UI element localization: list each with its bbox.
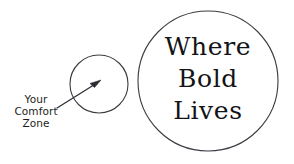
comfort-zone-label-line-3: Zone: [8, 117, 64, 129]
comfort-zone-diagram: Your Comfort Zone Where Bold Lives: [0, 0, 294, 164]
bold-circle-line-2: Bold: [147, 63, 269, 95]
comfort-zone-circle: [70, 55, 128, 113]
comfort-zone-label: Your Comfort Zone: [8, 93, 64, 129]
bold-circle-line-1: Where: [147, 31, 269, 63]
where-bold-lives-text: Where Bold Lives: [147, 31, 269, 127]
comfort-zone-label-line-1: Your: [8, 93, 64, 105]
comfort-zone-label-line-2: Comfort: [8, 105, 64, 117]
bold-circle-line-3: Lives: [147, 95, 269, 127]
